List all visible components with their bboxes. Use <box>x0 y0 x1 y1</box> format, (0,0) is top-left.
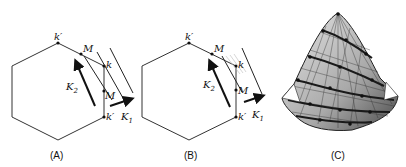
label-K2: K2 <box>65 81 78 95</box>
label-k-prime-top: k′ <box>54 31 63 42</box>
label-K1: K1 <box>120 111 133 125</box>
label-M-side: M <box>104 90 116 101</box>
label-k-prime-top: k′ <box>185 31 194 42</box>
label-K2: K2 <box>202 79 215 93</box>
label-k: k <box>238 59 244 70</box>
label-k-prime-bottom: k′ <box>106 111 115 122</box>
k1-arrow-icon <box>244 96 262 102</box>
panel-a: k′ M k M k′ K2 K1 (A) <box>12 31 133 161</box>
hexagon-brillouin-zone <box>12 43 104 140</box>
diagram-canvas: k′ M k M k′ K2 K1 (A) k′ M k M k′ K2 K1 … <box>0 0 406 167</box>
caption-b: (B) <box>184 150 197 161</box>
caption-a: (A) <box>50 150 63 161</box>
scan-line <box>110 48 133 93</box>
label-k: k <box>106 59 112 70</box>
panel-b: k′ M k M k′ K2 K1 (B) <box>142 31 264 161</box>
hexagon-brillouin-zone <box>142 43 236 140</box>
label-M-side: M <box>237 85 249 96</box>
panel-c-mesh-surface: (C) <box>282 12 398 161</box>
label-M-top: M <box>213 43 225 54</box>
label-k-prime-bottom: k′ <box>238 111 247 122</box>
label-M-top: M <box>82 43 94 54</box>
label-K1: K1 <box>251 109 264 123</box>
caption-c: (C) <box>331 150 345 161</box>
